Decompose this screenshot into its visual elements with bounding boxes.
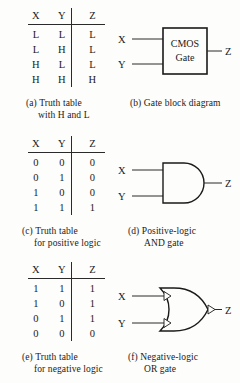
table-row: L L L (28, 25, 105, 43)
cell-x: 1 (28, 296, 45, 311)
column-header-y: Y (54, 262, 72, 279)
cell-z: L (71, 25, 105, 43)
column-header-x: X (28, 262, 45, 279)
table-e: X Y Z 1 1 1 1 0 1 0 1 1 (28, 262, 105, 341)
cell-y: 1 (54, 200, 72, 215)
cell-x: 0 (28, 311, 45, 326)
cell-z: 1 (71, 296, 105, 311)
cell-y: H (54, 72, 72, 87)
and-gate-diagram: X Y Z (118, 160, 236, 212)
column-header-x: X (28, 136, 45, 153)
table-row: 0 0 0 (28, 153, 105, 171)
label-input-y: Y (118, 191, 126, 202)
label-output-z: Z (225, 305, 231, 316)
cell-z: 0 (71, 185, 105, 200)
cell-x: 1 (28, 185, 45, 200)
cell-x: 1 (28, 279, 45, 297)
cell-y: 1 (54, 279, 72, 297)
caption-d-line2: AND gate (128, 238, 196, 250)
cell-spacer (45, 25, 54, 43)
caption-a-line2: with H and L (26, 110, 90, 122)
cell-spacer (45, 296, 54, 311)
cell-spacer (45, 311, 54, 326)
cell-spacer (45, 279, 54, 297)
caption-e: (e) Truth table for negative logic (22, 352, 103, 375)
table-row: 0 1 1 (28, 311, 105, 326)
column-header-x: X (28, 8, 45, 25)
cell-z: L (71, 57, 105, 72)
column-header-z: Z (71, 136, 105, 153)
cell-y: H (54, 42, 72, 57)
label-output-z: Z (225, 178, 231, 189)
cell-z: 1 (71, 311, 105, 326)
caption-c-line1: (c) Truth table (22, 226, 78, 236)
cell-x: 0 (28, 153, 45, 171)
cell-x: 0 (28, 326, 45, 341)
cell-spacer (45, 42, 54, 57)
block-label-line2: Gate (176, 52, 195, 63)
caption-f-line2: OR gate (128, 364, 198, 376)
cell-z: H (71, 72, 105, 87)
caption-b: (b) Gate block diagram (130, 98, 221, 110)
cell-y: 0 (54, 185, 72, 200)
caption-e-line1: (e) Truth table (22, 352, 78, 362)
cell-x: 1 (28, 200, 45, 215)
caption-b-line1: (b) Gate block diagram (130, 98, 221, 108)
cell-x: L (28, 25, 45, 43)
caption-d-line1: (d) Positive-logic (128, 226, 196, 236)
header-spacer (45, 262, 54, 279)
cell-x: L (28, 42, 45, 57)
table-a: X Y Z L L L L H L H L L (28, 8, 105, 87)
truth-table-a: X Y Z L L L L H L H L L (18, 8, 114, 87)
cell-spacer (45, 170, 54, 185)
cell-x: H (28, 57, 45, 72)
cell-y: 0 (54, 326, 72, 341)
cell-x: H (28, 72, 45, 87)
table-row: 1 1 1 (28, 200, 105, 215)
table-row: H H H (28, 72, 105, 87)
caption-c: (c) Truth table for positive logic (22, 226, 101, 249)
truth-table-e: X Y Z 1 1 1 1 0 1 0 1 1 (18, 262, 114, 341)
column-header-z: Z (71, 8, 105, 25)
label-output-z: Z (225, 46, 231, 57)
and-gate-body (163, 163, 204, 203)
cell-z: L (71, 42, 105, 57)
cell-y: 0 (54, 153, 72, 171)
column-header-y: Y (54, 8, 72, 25)
caption-f: (f) Negative-logic OR gate (128, 352, 198, 375)
table-row: L H L (28, 42, 105, 57)
cell-z: 1 (71, 200, 105, 215)
cell-spacer (45, 72, 54, 87)
cell-spacer (45, 200, 54, 215)
table-c: X Y Z 0 0 0 0 1 0 1 0 0 (28, 136, 105, 215)
table-row: 1 0 1 (28, 296, 105, 311)
table-row: H L L (28, 57, 105, 72)
label-input-y: Y (118, 59, 126, 70)
gate-block-diagram: X Y Z CMOS Gate (118, 24, 236, 86)
table-row: 0 0 0 (28, 326, 105, 341)
cell-spacer (45, 185, 54, 200)
caption-d: (d) Positive-logic AND gate (128, 226, 196, 249)
cell-spacer (45, 326, 54, 341)
cmos-gate-box (163, 28, 207, 74)
table-row: 0 1 0 (28, 170, 105, 185)
label-input-x: X (118, 34, 126, 45)
table-row: X Y Z (28, 136, 105, 153)
caption-a-line1: (a) Truth table (26, 98, 82, 108)
cell-y: 1 (54, 170, 72, 185)
cell-y: 0 (54, 296, 72, 311)
caption-f-line1: (f) Negative-logic (128, 352, 198, 362)
table-row: X Y Z (28, 8, 105, 25)
table-row: 1 1 1 (28, 279, 105, 297)
caption-a: (a) Truth table with H and L (26, 98, 90, 121)
caption-c-line2: for positive logic (22, 238, 101, 250)
polarity-triangle-output-z-icon (208, 305, 215, 314)
column-header-y: Y (54, 136, 72, 153)
cell-z: 1 (71, 279, 105, 297)
label-input-x: X (118, 165, 126, 176)
cell-y: 1 (54, 311, 72, 326)
or-gate-diagram: X Y Z (118, 286, 236, 340)
header-spacer (45, 136, 54, 153)
header-spacer (45, 8, 54, 25)
figure-root: X Y Z L L L L H L H L L (0, 0, 240, 383)
